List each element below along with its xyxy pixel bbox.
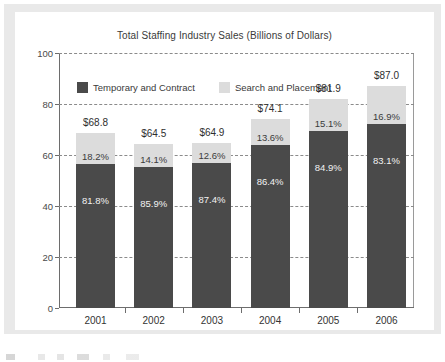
x-tick-label: 2001 xyxy=(84,315,106,326)
y-tick-mark xyxy=(55,104,59,105)
bar-group[interactable]: $68.818.2%81.8% xyxy=(76,53,115,308)
bar-segment-temporary-and-contract[interactable] xyxy=(251,145,290,308)
bar-total-label: $64.9 xyxy=(192,127,231,138)
segment-percent-label-temporary-and-contract: 87.4% xyxy=(192,194,231,205)
plot-area: $68.818.2%81.8%2001$64.514.1%85.9%2002$6… xyxy=(59,53,414,308)
bar-segment-temporary-and-contract[interactable] xyxy=(367,124,406,308)
x-tick-mark xyxy=(125,308,126,313)
bar-stack[interactable] xyxy=(134,144,173,308)
x-tick-label: 2003 xyxy=(201,315,223,326)
plot-right-edge xyxy=(413,53,414,308)
x-tick-mark xyxy=(299,308,300,313)
y-tick-label: 60 xyxy=(23,150,53,161)
bar-stack[interactable] xyxy=(251,119,290,308)
caption-sliver xyxy=(6,354,236,360)
x-tick-mark xyxy=(241,308,242,313)
bar-total-label: $87.0 xyxy=(367,70,406,81)
x-tick-label: 2006 xyxy=(375,315,397,326)
bar-segment-temporary-and-contract[interactable] xyxy=(134,167,173,308)
x-tick-mark xyxy=(183,308,184,313)
segment-percent-label-temporary-and-contract: 81.8% xyxy=(76,195,115,206)
y-tick-label: 20 xyxy=(23,252,53,263)
y-tick-label: 0 xyxy=(23,303,53,314)
y-tick-mark xyxy=(55,206,59,207)
chart-frame: Total Staffing Industry Sales (Billions … xyxy=(4,4,441,334)
x-tick-label: 2002 xyxy=(143,315,165,326)
y-tick-label: 40 xyxy=(23,201,53,212)
y-axis-line xyxy=(59,53,60,308)
bar-total-label: $74.1 xyxy=(251,103,290,114)
bar-group[interactable]: $81.915.1%84.9% xyxy=(309,53,348,308)
segment-percent-label-search-and-placement: 16.9% xyxy=(367,111,406,122)
y-tick-mark xyxy=(55,155,59,156)
segment-percent-label-search-and-placement: 15.1% xyxy=(309,118,348,129)
y-tick-mark xyxy=(55,53,59,54)
figure: Total Staffing Industry Sales (Billions … xyxy=(0,0,445,362)
segment-percent-label-search-and-placement: 13.6% xyxy=(251,132,290,143)
segment-percent-label-search-and-placement: 12.6% xyxy=(192,150,231,161)
chart-panel: Total Staffing Industry Sales (Billions … xyxy=(15,12,434,330)
segment-percent-label-search-and-placement: 14.1% xyxy=(134,154,173,165)
bar-stack[interactable] xyxy=(309,99,348,308)
y-tick-label: 80 xyxy=(23,99,53,110)
bar-group[interactable]: $64.912.6%87.4% xyxy=(192,53,231,308)
x-tick-label: 2005 xyxy=(317,315,339,326)
y-tick-label: 100 xyxy=(23,48,53,59)
y-tick-mark xyxy=(55,257,59,258)
bar-group[interactable]: $87.016.9%83.1% xyxy=(367,53,406,308)
x-tick-mark xyxy=(357,308,358,313)
y-axis: 020406080100 xyxy=(15,53,53,308)
bar-total-label: $68.8 xyxy=(76,117,115,128)
bar-group[interactable]: $64.514.1%85.9% xyxy=(134,53,173,308)
chart-title: Total Staffing Industry Sales (Billions … xyxy=(15,30,434,41)
bar-group[interactable]: $74.113.6%86.4% xyxy=(251,53,290,308)
bar-total-label: $64.5 xyxy=(134,128,173,139)
bar-segment-temporary-and-contract[interactable] xyxy=(309,131,348,308)
segment-percent-label-temporary-and-contract: 84.9% xyxy=(309,162,348,173)
segment-percent-label-temporary-and-contract: 86.4% xyxy=(251,176,290,187)
segment-percent-label-temporary-and-contract: 85.9% xyxy=(134,198,173,209)
bar-total-label: $81.9 xyxy=(309,83,348,94)
segment-percent-label-search-and-placement: 18.2% xyxy=(76,151,115,162)
x-tick-label: 2004 xyxy=(259,315,281,326)
y-tick-mark xyxy=(55,308,59,309)
bar-segment-temporary-and-contract[interactable] xyxy=(192,163,231,308)
segment-percent-label-temporary-and-contract: 83.1% xyxy=(367,155,406,166)
bar-segment-temporary-and-contract[interactable] xyxy=(76,164,115,308)
bar-stack[interactable] xyxy=(192,143,231,308)
